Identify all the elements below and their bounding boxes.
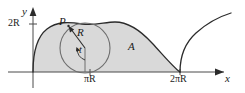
x-axis-arrowhead: [215, 69, 224, 76]
cycloid-figure: y x 2R πR 2πR P R t A: [0, 0, 245, 93]
x-axis-label: x: [225, 73, 230, 84]
area-A-label: A: [128, 41, 135, 52]
x-tick-label-2piR: 2πR: [170, 74, 187, 84]
y-tick-label-2R: 2R: [8, 18, 20, 28]
radius-R-label: R: [77, 27, 84, 38]
y-axis-label: y: [22, 6, 27, 17]
angle-t-label: t: [79, 45, 82, 55]
x-tick-label-piR: πR: [84, 74, 96, 84]
cycloid-svg: [0, 0, 245, 93]
cycloid-arch-second: [180, 13, 231, 72]
y-axis-arrowhead: [30, 7, 37, 16]
point-P-label: P: [59, 16, 66, 27]
point-P-marker: [67, 25, 69, 27]
shaded-area-A: [33, 22, 180, 72]
